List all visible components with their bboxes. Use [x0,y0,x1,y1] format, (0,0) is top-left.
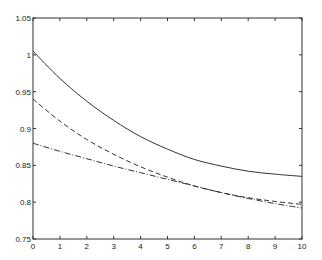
y-tick-label: 0.95 [15,88,31,97]
x-tick-label: 4 [138,242,143,251]
y-tick-label: 0.85 [15,161,31,170]
y-tick-label: 0.9 [20,125,32,134]
line-chart: 0123456789100.750.80.850.90.9511.05 [0,0,322,260]
y-tick-label: 1.05 [15,14,31,23]
y-tick-label: 1 [27,51,32,60]
x-tick-label: 8 [246,242,251,251]
x-tick-label: 9 [273,242,278,251]
plot-area: 0123456789100.750.80.850.90.9511.05 [15,14,307,251]
x-tick-label: 1 [58,242,63,251]
y-tick-label: 0.8 [20,198,32,207]
x-tick-label: 2 [85,242,90,251]
x-tick-label: 0 [31,242,36,251]
x-tick-label: 7 [219,242,224,251]
x-tick-label: 5 [165,242,170,251]
x-tick-label: 3 [111,242,116,251]
x-tick-label: 10 [298,242,307,251]
x-tick-label: 6 [192,242,197,251]
axes-box [33,18,302,239]
y-tick-label: 0.75 [15,235,31,244]
